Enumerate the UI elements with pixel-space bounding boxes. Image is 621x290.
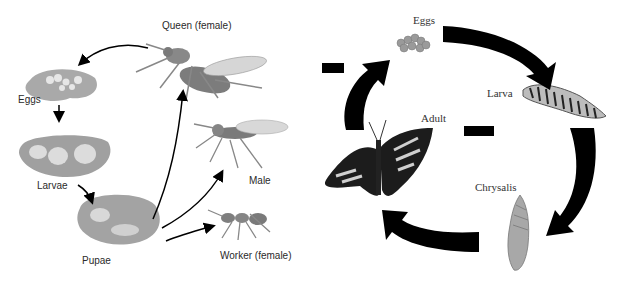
blank-box-2 bbox=[464, 126, 494, 136]
life-cycle-figure: Queen (female) Eggs Larvae Pupae Male Wo… bbox=[0, 0, 621, 290]
label-adult: Adult bbox=[421, 112, 446, 124]
egg-cluster-illustration bbox=[397, 34, 430, 52]
label-chrysalis: Chrysalis bbox=[475, 181, 517, 193]
label-larva: Larva bbox=[487, 87, 513, 99]
label-male: Male bbox=[249, 175, 271, 186]
label-pupae: Pupae bbox=[82, 255, 111, 266]
butterfly-illustration bbox=[325, 120, 433, 196]
label-eggs-right: Eggs bbox=[413, 14, 435, 26]
label-worker: Worker (female) bbox=[220, 250, 292, 261]
blank-box-1 bbox=[322, 63, 344, 73]
label-eggs-left: Eggs bbox=[18, 94, 41, 105]
pupae-blob bbox=[77, 195, 159, 245]
caterpillar-illustration bbox=[523, 85, 606, 118]
chrysalis-illustration bbox=[508, 195, 529, 270]
male-wasp-illustration bbox=[194, 120, 288, 168]
label-larvae: Larvae bbox=[37, 180, 68, 191]
label-queen: Queen (female) bbox=[162, 20, 231, 31]
queen-wasp-illustration bbox=[136, 44, 268, 100]
diagram-graphics bbox=[0, 0, 621, 290]
worker-ant-illustration bbox=[208, 210, 270, 240]
larvae-blob bbox=[19, 135, 110, 177]
right-cycle-arrows bbox=[344, 26, 595, 252]
